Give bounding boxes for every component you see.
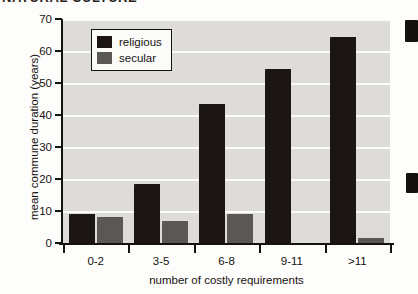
- y-tick-label-70: 70: [18, 13, 52, 25]
- bar-religious-3-5: [134, 184, 160, 243]
- y-tick-40: [55, 114, 62, 116]
- y-tick-70: [55, 18, 62, 20]
- y-tick-10: [55, 210, 62, 212]
- x-tick-end: [390, 245, 392, 253]
- x-tick-label-3-5: 3-5: [153, 255, 170, 267]
- y-axis-tick-labels: 010203040506070: [0, 0, 52, 294]
- legend-label-secular: secular: [119, 52, 156, 64]
- chart-legend: religioussecular: [91, 29, 172, 71]
- legend-swatch-secular-icon: [97, 52, 112, 64]
- bar-secular-0-2: [97, 217, 123, 243]
- bar-religious-0-2: [69, 214, 95, 243]
- bar-group-9-11: [259, 19, 324, 243]
- x-tick-label-9-11: 9-11: [281, 255, 303, 267]
- y-tick-30: [55, 146, 62, 148]
- bar-secular-3-5: [162, 221, 188, 243]
- x-tick-0: [63, 245, 65, 253]
- x-tick-4: [325, 245, 327, 253]
- legend-swatch-religious-icon: [97, 36, 112, 48]
- y-tick-0: [55, 242, 62, 244]
- bar-secular-6-8: [227, 214, 253, 243]
- legend-label-religious: religious: [119, 36, 162, 48]
- bar-group->11: [325, 19, 390, 243]
- y-tick-50: [55, 82, 62, 84]
- legend-item-religious: religious: [97, 34, 162, 50]
- x-tick-label-6-8: 6-8: [218, 255, 235, 267]
- y-tick-20: [55, 178, 62, 180]
- y-tick-60: [55, 50, 62, 52]
- x-axis-line: [59, 243, 394, 245]
- bar-religious->11: [330, 37, 356, 243]
- x-axis-title: number of costly requirements: [63, 274, 390, 286]
- bar-religious-9-11: [265, 69, 291, 243]
- x-tick-3: [259, 245, 261, 253]
- bar-group-6-8: [194, 19, 259, 243]
- x-tick-1: [128, 245, 130, 253]
- legend-item-secular: secular: [97, 50, 162, 66]
- bar-chart: 010203040506070 0-23-56-89-11>11 number …: [0, 0, 418, 294]
- y-tick-label-0: 0: [18, 237, 52, 249]
- x-tick-label->11: >11: [348, 255, 367, 267]
- x-tick-2: [194, 245, 196, 253]
- x-tick-label-0-2: 0-2: [87, 255, 104, 267]
- scanned-page: NATURAL CULTURE 010203040506070 0-23-56-…: [0, 0, 418, 294]
- bar-religious-6-8: [199, 104, 225, 243]
- y-axis-title: mean commune duration (years): [28, 37, 40, 237]
